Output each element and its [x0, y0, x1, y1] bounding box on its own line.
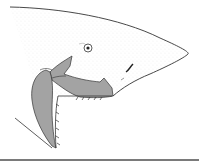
- shark-mouth-outline: [55, 96, 112, 148]
- shark-head-illustration: [0, 0, 199, 163]
- shark-lower-teeth: [56, 104, 60, 145]
- bottom-rule: [0, 159, 199, 161]
